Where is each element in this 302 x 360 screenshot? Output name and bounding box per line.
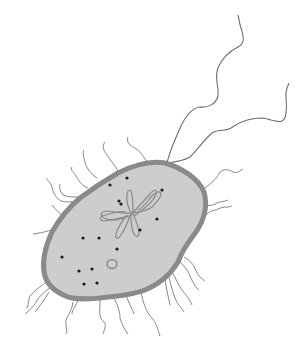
flagellum-2 — [167, 83, 289, 163]
bacterium-diagram: Bacterium cell illustration — [0, 0, 302, 360]
cell-wall — [43, 162, 205, 299]
flagellum-1 — [167, 15, 243, 163]
flagella — [167, 15, 289, 163]
bacterium-svg — [0, 0, 302, 360]
